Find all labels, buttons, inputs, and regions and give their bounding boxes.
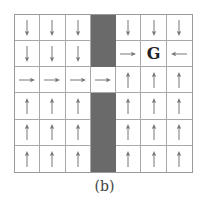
wall-cell [91, 146, 116, 172]
arrow-down-icon [118, 18, 138, 38]
policy-cell [15, 15, 40, 41]
arrow-up-icon [169, 96, 189, 116]
policy-cell [116, 41, 141, 67]
arrow-down-icon [68, 18, 88, 38]
arrow-up-icon [17, 149, 37, 169]
policy-cell [40, 120, 65, 146]
arrow-down-icon [42, 18, 62, 38]
policy-cell [15, 67, 40, 93]
arrow-down-icon [68, 44, 88, 64]
policy-cell [116, 15, 141, 41]
arrow-right-icon [93, 70, 113, 90]
goal-cell: G [141, 41, 166, 67]
arrow-up-icon [169, 70, 189, 90]
arrow-up-icon [144, 96, 164, 116]
policy-cell [141, 67, 166, 93]
policy-cell [66, 15, 91, 41]
policy-cell [40, 67, 65, 93]
wall-cell [91, 93, 116, 119]
policy-cell [167, 67, 192, 93]
arrow-down-icon [144, 18, 164, 38]
policy-cell [40, 15, 65, 41]
arrow-up-icon [118, 96, 138, 116]
arrow-right-icon [17, 70, 37, 90]
arrow-up-icon [68, 96, 88, 116]
policy-cell [167, 120, 192, 146]
policy-cell [66, 67, 91, 93]
policy-cell [15, 120, 40, 146]
policy-cell [141, 146, 166, 172]
policy-cell [141, 93, 166, 119]
policy-cell [40, 93, 65, 119]
arrow-right-icon [68, 70, 88, 90]
policy-cell [167, 93, 192, 119]
arrow-up-icon [42, 149, 62, 169]
policy-cell [66, 146, 91, 172]
policy-cell [40, 146, 65, 172]
policy-cell [167, 41, 192, 67]
arrow-down-icon [17, 18, 37, 38]
arrow-right-icon [118, 44, 138, 64]
figure-caption: (b) [0, 178, 201, 194]
policy-cell [167, 15, 192, 41]
wall-cell [91, 15, 116, 41]
policy-cell [15, 93, 40, 119]
arrow-up-icon [169, 149, 189, 169]
arrow-up-icon [144, 122, 164, 142]
arrow-up-icon [144, 149, 164, 169]
arrow-up-icon [42, 122, 62, 142]
policy-cell [66, 93, 91, 119]
wall-cell [91, 120, 116, 146]
policy-cell [116, 120, 141, 146]
arrow-up-icon [17, 122, 37, 142]
policy-cell [141, 120, 166, 146]
gridworld-policy: G [14, 14, 193, 173]
policy-cell [167, 146, 192, 172]
arrow-up-icon [17, 96, 37, 116]
arrow-left-icon [169, 44, 189, 64]
arrow-down-icon [169, 18, 189, 38]
arrow-up-icon [42, 96, 62, 116]
arrow-up-icon [118, 149, 138, 169]
policy-cell [116, 67, 141, 93]
arrow-up-icon [68, 122, 88, 142]
arrow-up-icon [118, 70, 138, 90]
policy-cell [66, 41, 91, 67]
policy-cell [40, 41, 65, 67]
arrow-down-icon [17, 44, 37, 64]
policy-cell [116, 146, 141, 172]
wall-cell [91, 41, 116, 67]
arrow-up-icon [144, 70, 164, 90]
arrow-right-icon [42, 70, 62, 90]
policy-cell [15, 41, 40, 67]
policy-cell [116, 93, 141, 119]
arrow-up-icon [169, 122, 189, 142]
policy-cell [91, 67, 116, 93]
policy-cell [66, 120, 91, 146]
goal-label: G [147, 44, 161, 63]
arrow-up-icon [68, 149, 88, 169]
arrow-down-icon [42, 44, 62, 64]
arrow-up-icon [118, 122, 138, 142]
policy-cell [141, 15, 166, 41]
policy-cell [15, 146, 40, 172]
